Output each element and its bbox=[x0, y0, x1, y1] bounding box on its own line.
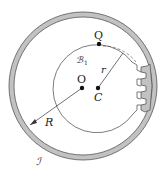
outer-ring bbox=[9, 12, 157, 160]
label-Q: Q bbox=[94, 29, 103, 42]
point-O bbox=[80, 86, 84, 90]
label-I: ℐ bbox=[36, 156, 43, 167]
point-C bbox=[96, 86, 100, 90]
label-B1-sub: 1 bbox=[84, 59, 88, 66]
label-r: r bbox=[101, 64, 107, 75]
radius-R-line bbox=[30, 88, 82, 125]
gear-diagram: Q O C r R ℬ 1 ℐ bbox=[0, 0, 165, 171]
label-R: R bbox=[44, 116, 53, 129]
arrowhead-R bbox=[30, 119, 37, 125]
label-B1: ℬ bbox=[76, 55, 84, 65]
point-Q bbox=[97, 42, 101, 46]
pitch-arc bbox=[103, 46, 136, 62]
label-O: O bbox=[77, 73, 86, 86]
label-C: C bbox=[94, 91, 103, 104]
